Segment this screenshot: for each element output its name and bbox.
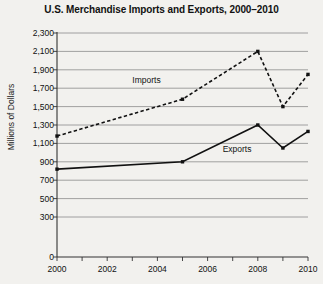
series-line-imports xyxy=(57,51,308,136)
data-point-marker xyxy=(55,167,58,170)
series-label-exports: Exports xyxy=(223,144,252,154)
data-point-marker xyxy=(256,50,259,53)
series-label-imports: Imports xyxy=(132,75,160,85)
data-point-marker xyxy=(281,146,284,149)
series-lines xyxy=(57,51,308,169)
x-axis-ticks xyxy=(57,257,308,261)
x-axis-tick-label: 2006 xyxy=(191,264,225,274)
x-axis-tick-label: 2004 xyxy=(140,264,174,274)
chart-container: U.S. Merchandise Imports and Exports, 20… xyxy=(0,0,323,284)
data-point-marker xyxy=(306,130,309,133)
data-point-marker xyxy=(181,98,184,101)
data-point-marker xyxy=(281,105,284,108)
data-point-marker xyxy=(181,160,184,163)
y-axis-ticks xyxy=(53,33,57,257)
axis-lines xyxy=(57,32,308,257)
chart-plot-area xyxy=(0,0,323,284)
data-point-marker xyxy=(55,134,58,137)
data-point-marker xyxy=(256,123,259,126)
gridlines xyxy=(57,33,308,217)
data-point-marker xyxy=(306,73,309,76)
x-axis-tick-label: 2000 xyxy=(40,264,74,274)
series-markers xyxy=(55,50,309,171)
x-axis-tick-label: 2008 xyxy=(241,264,275,274)
x-axis-tick-label: 2002 xyxy=(90,264,124,274)
x-axis-tick-label: 2010 xyxy=(291,264,323,274)
